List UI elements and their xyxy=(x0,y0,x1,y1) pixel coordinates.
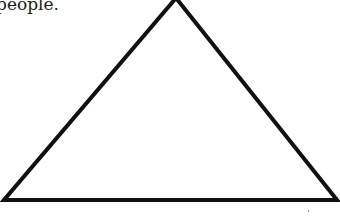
speck-mark xyxy=(308,210,309,212)
triangle-shape xyxy=(4,0,337,200)
triangle-figure xyxy=(0,0,340,216)
